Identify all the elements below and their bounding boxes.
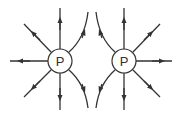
right-charge: P — [112, 49, 136, 73]
field-diagram: P P — [0, 0, 176, 116]
left-charge: P — [48, 49, 72, 73]
charge-label: P — [56, 54, 65, 69]
charge-label: P — [120, 54, 129, 69]
